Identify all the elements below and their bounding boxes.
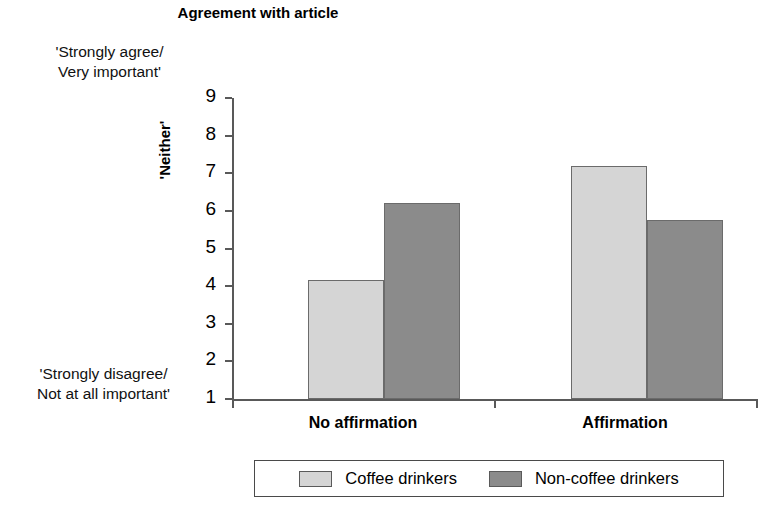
x-axis-tick [494,399,496,408]
bar [647,220,723,399]
x-axis-tick [232,399,234,408]
y-axis-tick: 8 [225,135,232,137]
category-label-no-affirmation: No affirmation [238,414,488,432]
y-axis-tick-label: 3 [190,311,216,333]
plot-area: 123456789 [232,98,758,401]
category-label-affirmation: Affirmation [500,414,750,432]
y-axis-tick-label: 8 [190,123,216,145]
legend: Coffee drinkersNon-coffee drinkers [254,460,724,497]
y-axis-tick-label: 9 [190,85,216,107]
scale-anchor-top-line1: 'Strongly agree/ [55,43,163,60]
y-axis-tick: 6 [225,210,232,212]
y-axis-label: 'Neither' [156,80,180,220]
legend-label: Coffee drinkers [345,469,457,488]
bar-chart-figure: Agreement with article 'Strongly agree/V… [0,0,775,529]
y-axis-tick: 9 [225,97,232,99]
legend-entry: Coffee drinkers [299,469,457,488]
bar [308,280,384,399]
chart-title: Agreement with article [108,4,408,21]
legend-swatch-dark [489,471,522,487]
y-axis-tick-label: 2 [190,348,216,370]
y-axis-tick: 5 [225,248,232,250]
y-axis-tick-label: 6 [190,198,216,220]
y-axis-tick: 2 [225,360,232,362]
bar [384,203,460,399]
y-axis-line [232,98,234,401]
y-axis-tick-label: 5 [190,236,216,258]
y-axis-tick-label: 4 [190,273,216,295]
y-axis-tick: 1 [225,398,232,400]
y-axis-tick-label: 1 [190,386,216,408]
legend-label: Non-coffee drinkers [535,469,679,488]
scale-anchor-bottom: 'Strongly disagree/Not at all important' [6,364,201,404]
y-axis-tick: 7 [225,172,232,174]
legend-entry: Non-coffee drinkers [489,469,679,488]
scale-anchor-top-line2: Very important' [58,63,161,80]
bar [571,166,647,399]
scale-anchor-top: 'Strongly agree/Very important' [22,42,197,82]
scale-anchor-bottom-line2: Not at all important' [37,385,170,402]
y-axis-tick: 4 [225,285,232,287]
y-axis-tick-label: 7 [190,160,216,182]
scale-anchor-bottom-line1: 'Strongly disagree/ [40,365,168,382]
legend-swatch-light [299,471,332,487]
x-axis-tick [756,399,758,408]
y-axis-tick: 3 [225,323,232,325]
